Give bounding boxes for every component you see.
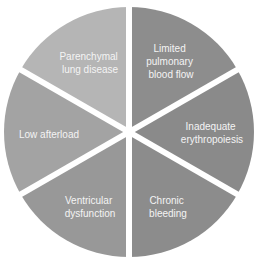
label-low-afterload: Low afterload [19, 129, 79, 140]
cause-pie-diagram: Limited pulmonary blood flow Inadequate … [0, 0, 257, 263]
label-limited-pulmonary-blood-flow: Limited pulmonary blood flow [146, 43, 195, 80]
